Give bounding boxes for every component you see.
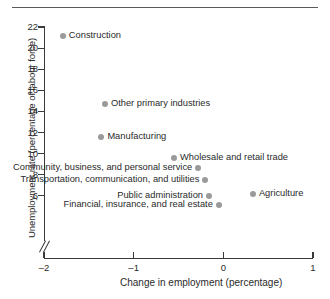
x-axis-line [44,258,313,259]
y-axis-title: Unemployment rate (percentage of labour … [27,18,37,258]
x-tick-mark [223,252,224,258]
data-point-marker[interactable] [216,202,222,208]
data-point-marker[interactable] [102,101,108,107]
data-point-label: Community, business, and personal servic… [13,164,192,174]
y-tick-mark [38,69,44,70]
data-point-label: Financial, insurance, and real estate [63,201,212,211]
x-tick-label: 1 [298,263,328,273]
x-axis-title: Change in employment (percentage) [120,277,320,288]
y-tick-mark [38,153,44,154]
x-tick-mark [43,252,44,258]
y-tick-mark [38,90,44,91]
data-point-label: Agriculture [259,189,303,199]
data-point-marker[interactable] [171,155,177,161]
x-tick-mark [312,252,313,258]
scatter-plot: 2220181614121086 –2–101 ConstructionOthe… [0,0,330,299]
y-tick-mark [38,26,44,27]
y-tick-mark [38,48,44,49]
y-tick-mark [38,132,44,133]
y-tick-mark [38,195,44,196]
y-tick-mark [38,111,44,112]
x-tick-mark [133,252,134,258]
data-point-label: Construction [69,32,121,42]
data-point-marker[interactable] [250,191,256,197]
data-point-marker[interactable] [60,33,66,39]
data-point-marker[interactable] [98,134,104,140]
data-point-label: Wholesale and retail trade [180,153,288,163]
x-tick-label: –2 [29,263,59,273]
x-tick-label: –1 [119,263,149,273]
figure-container: 2220181614121086 –2–101 ConstructionOthe… [0,0,330,299]
data-point-marker[interactable] [206,193,212,199]
data-point-label: Transportation, communication, and utili… [20,175,199,185]
data-point-marker[interactable] [195,165,201,171]
y-axis-line [44,26,45,241]
x-tick-label: 0 [208,263,238,273]
data-point-marker[interactable] [202,177,208,183]
data-point-label: Other primary industries [111,99,210,109]
data-point-label: Manufacturing [107,132,166,142]
